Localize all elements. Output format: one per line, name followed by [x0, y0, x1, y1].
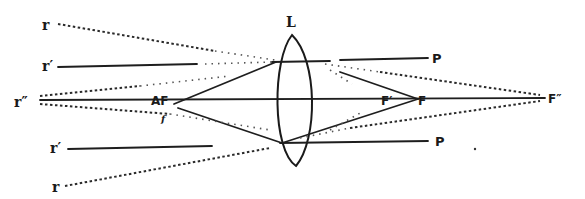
ray-r-top-dotted-faint: [215, 51, 275, 60]
ray-top-to-P: [340, 58, 428, 60]
ray-upper-to-F-double-prime-faint: [325, 64, 380, 72]
ray-af-to-lower-lens: [178, 108, 282, 143]
label-r-top: r: [42, 17, 50, 33]
ray-r-bottom-dotted: [65, 148, 270, 186]
ray-upper-to-F-double-prime: [380, 72, 540, 95]
label-af: AF: [151, 94, 168, 108]
label-p-top: P: [432, 51, 442, 66]
label-p-bottom: P: [435, 134, 445, 149]
lens-L: [277, 35, 312, 166]
ray-top-through-lens: [272, 61, 330, 62]
ray-lower-to-F: [282, 99, 418, 143]
label-r-prime-bottom: r′: [50, 140, 61, 156]
ray-bottom-through-lens: [280, 141, 428, 143]
label-lens: L: [286, 14, 296, 30]
ray-r-top-dotted: [58, 24, 215, 51]
ray-af-to-upper-lens: [174, 62, 276, 104]
ray-r-dp-up: [40, 86, 140, 96]
label-r-double-prime: r″: [14, 94, 28, 110]
ray-r-prime-top: [58, 64, 197, 67]
label-f: F: [418, 94, 426, 108]
label-r-prime-top: r′: [42, 58, 53, 74]
label-r-bottom: r: [52, 179, 60, 195]
stray-dot: [474, 148, 476, 150]
ray-r-prime-bottom: [68, 146, 212, 149]
label-f-double-prime: F″: [548, 92, 562, 106]
label-f-prime: F′: [381, 94, 392, 108]
ray-r-dp-up-faint: [140, 76, 230, 86]
lens-ray-diagram: L r r′ r″ r′ r AF f F′ F F″ P P: [0, 0, 585, 199]
ray-lower-to-F-double-prime: [350, 101, 540, 128]
ray-r-prime-top-dash: [205, 62, 272, 64]
principal-axis: [40, 98, 545, 100]
